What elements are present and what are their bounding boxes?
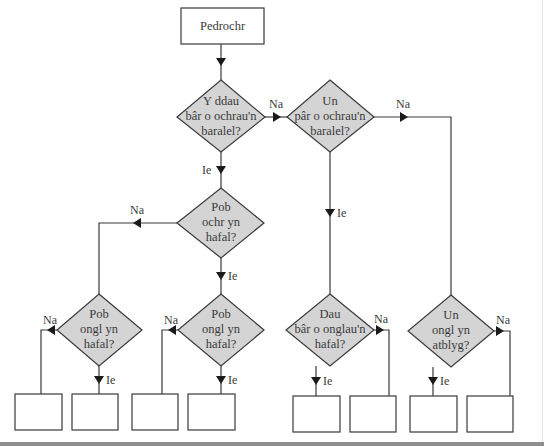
answer-box-1[interactable] bbox=[15, 394, 62, 430]
decision-node-d4: Pob ongl yn hafal? bbox=[57, 294, 142, 366]
decision-node-d1: Y ddau bâr o ochrau'n baralel? bbox=[177, 80, 265, 152]
arrow-right-icon bbox=[376, 325, 384, 335]
quadrilateral-flowchart: Na Na Ie Ie Na Ie Na Ie Na bbox=[0, 0, 544, 446]
edge-label-no: Na bbox=[496, 313, 511, 327]
decision-node-d5: Pob ongl yn hafal? bbox=[178, 294, 264, 366]
edge-label-no: Na bbox=[130, 203, 145, 217]
arrow-down-icon bbox=[216, 272, 226, 280]
svg-text:Un: Un bbox=[322, 94, 338, 108]
arrow-down-icon bbox=[94, 376, 104, 384]
edge-label-no: Na bbox=[269, 97, 284, 111]
edge-label-yes: Ie bbox=[323, 374, 332, 388]
svg-text:ongl yn: ongl yn bbox=[80, 322, 119, 336]
svg-text:atblyg?: atblyg? bbox=[433, 338, 470, 352]
arrow-down-icon bbox=[311, 377, 321, 385]
svg-text:ongl yn: ongl yn bbox=[202, 322, 241, 336]
svg-text:Dau: Dau bbox=[320, 307, 342, 321]
edge-label-yes: Ie bbox=[106, 373, 115, 387]
bottom-border bbox=[0, 442, 544, 446]
edge-label-yes: Ie bbox=[228, 373, 237, 387]
start-node-label: Pedrochr bbox=[200, 19, 246, 33]
svg-text:Un: Un bbox=[443, 308, 459, 322]
svg-text:baralel?: baralel? bbox=[201, 124, 241, 138]
decision-node-d3: Pob ochr yn hafal? bbox=[177, 188, 264, 258]
arrow-down-icon bbox=[216, 166, 226, 174]
answer-box-2[interactable] bbox=[72, 394, 118, 430]
decision-node-d7: Un ongl yn atblyg? bbox=[408, 295, 494, 367]
arrow-right-icon bbox=[400, 112, 408, 122]
edge-label-yes: Ie bbox=[202, 163, 211, 177]
arrow-down-icon bbox=[428, 377, 438, 385]
edge-label-yes: Ie bbox=[440, 374, 449, 388]
answer-box-5[interactable] bbox=[293, 396, 340, 432]
edge-label-yes: Ie bbox=[228, 269, 237, 283]
edge-label-yes: Ie bbox=[337, 206, 346, 220]
arrow-right-icon bbox=[496, 326, 504, 336]
answer-box-6[interactable] bbox=[350, 396, 396, 432]
svg-text:ochr yn: ochr yn bbox=[202, 215, 241, 229]
svg-text:baralel?: baralel? bbox=[310, 124, 350, 138]
decision-node-d6: Dau bâr o onglau'n hafal? bbox=[286, 294, 374, 366]
svg-text:Pob: Pob bbox=[89, 307, 108, 321]
arrow-down-icon bbox=[216, 58, 226, 66]
svg-text:pâr o ochrau'n: pâr o ochrau'n bbox=[295, 109, 367, 123]
edge-label-no: Na bbox=[43, 313, 58, 327]
edge-label-no: Na bbox=[164, 313, 179, 327]
svg-text:hafal?: hafal? bbox=[315, 337, 346, 351]
edge-label-no: Na bbox=[374, 312, 389, 326]
answer-boxes bbox=[15, 394, 513, 432]
answer-box-4[interactable] bbox=[188, 394, 235, 430]
answer-box-8[interactable] bbox=[467, 396, 513, 432]
arrow-right-icon bbox=[273, 112, 281, 122]
page-edge bbox=[542, 0, 543, 443]
svg-text:Pob: Pob bbox=[211, 307, 230, 321]
svg-text:ongl yn: ongl yn bbox=[432, 323, 471, 337]
answer-box-3[interactable] bbox=[132, 394, 178, 430]
arrow-down-icon bbox=[216, 376, 226, 384]
svg-text:hafal?: hafal? bbox=[206, 230, 237, 244]
edge-label-no: Na bbox=[396, 97, 411, 111]
arrow-left-icon bbox=[133, 218, 141, 228]
answer-box-7[interactable] bbox=[410, 396, 457, 432]
svg-text:hafal?: hafal? bbox=[206, 337, 237, 351]
decision-node-d2: Un pâr o ochrau'n baralel? bbox=[287, 80, 374, 152]
svg-text:Pob: Pob bbox=[211, 200, 230, 214]
svg-text:hafal?: hafal? bbox=[84, 337, 115, 351]
svg-text:bâr o ochrau'n: bâr o ochrau'n bbox=[186, 109, 258, 123]
start-node: Pedrochr bbox=[181, 8, 264, 44]
arrow-down-icon bbox=[325, 209, 335, 217]
svg-text:bâr o onglau'n: bâr o onglau'n bbox=[295, 322, 367, 336]
svg-text:Y ddau: Y ddau bbox=[203, 94, 240, 108]
